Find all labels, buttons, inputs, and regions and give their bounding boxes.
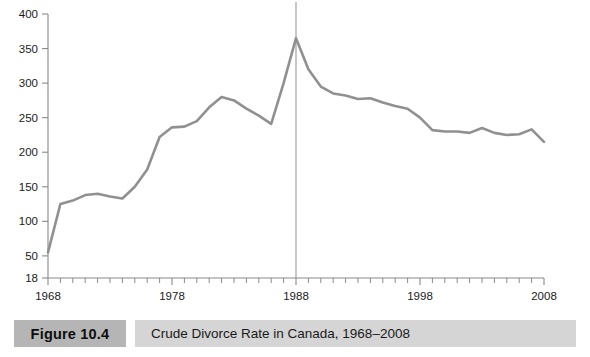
x-axis-labels: 19681978198819982008 [35, 290, 557, 302]
x-axis-tick-label: 1968 [35, 290, 61, 302]
figure-caption-text: Crude Divorce Rate in Canada, 1968–2008 [151, 326, 410, 341]
y-axis-tick-label: 18 [25, 272, 38, 284]
caption-separator [126, 320, 135, 347]
y-axis-tick-label: 50 [25, 250, 38, 262]
y-axis-tick-label: 350 [19, 43, 38, 55]
x-axis-tick-label: 1978 [159, 290, 185, 302]
x-axis-tick-label: 2008 [531, 290, 557, 302]
x-axis-tick-label: 1988 [283, 290, 309, 302]
figure-number-label: Figure 10.4 [31, 326, 110, 342]
y-axis-labels: 1850100150200250300350400 [19, 8, 38, 284]
chart-plot-area: 1850100150200250300350400 19681978198819… [0, 0, 590, 312]
y-axis-tick-label: 150 [19, 181, 38, 193]
x-axis-tick-label: 1998 [407, 290, 433, 302]
y-axis-tick-label: 300 [19, 77, 38, 89]
crude-divorce-rate-line-chart: 1850100150200250300350400 19681978198819… [0, 0, 590, 312]
y-axis-tick-label: 400 [19, 8, 38, 20]
figure-caption-bar: Figure 10.4 Crude Divorce Rate in Canada… [14, 320, 576, 347]
y-axis-tick-label: 100 [19, 215, 38, 227]
figure-container: 1850100150200250300350400 19681978198819… [0, 0, 590, 357]
figure-number-box: Figure 10.4 [14, 320, 126, 347]
y-axis-tick-label: 250 [19, 112, 38, 124]
y-axis-tick-group [42, 14, 48, 278]
y-axis-tick-label: 200 [19, 146, 38, 158]
figure-caption-box: Crude Divorce Rate in Canada, 1968–2008 [135, 320, 576, 347]
x-axis-tick-group [48, 278, 544, 285]
